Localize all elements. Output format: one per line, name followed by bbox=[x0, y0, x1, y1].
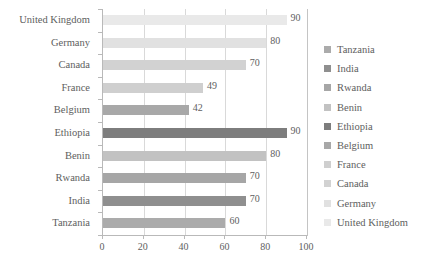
legend-item[interactable]: Belgium bbox=[324, 136, 437, 155]
legend-item[interactable]: France bbox=[324, 155, 437, 174]
bar bbox=[103, 196, 246, 206]
category-axis-tickmark bbox=[98, 167, 102, 168]
plot-wrapper: United KingdomGermanyCanadaFranceBelgium… bbox=[0, 0, 320, 273]
legend-item[interactable]: Tanzania bbox=[324, 40, 437, 59]
legend-swatch-icon bbox=[324, 84, 331, 91]
bar-value-label: 80 bbox=[266, 148, 280, 159]
category-axis-tickmark bbox=[98, 99, 102, 100]
category-axis-tickmark bbox=[98, 190, 102, 191]
bar bbox=[103, 15, 287, 25]
legend-label: Rwanda bbox=[337, 82, 371, 93]
bar bbox=[103, 83, 203, 93]
bar-value-label: 80 bbox=[266, 35, 280, 46]
bar-value-label: 70 bbox=[246, 193, 260, 204]
category-axis-labels: United KingdomGermanyCanadaFranceBelgium… bbox=[0, 9, 96, 235]
plot-area: 90807049429080707060 bbox=[102, 9, 306, 235]
legend-item[interactable]: Benin bbox=[324, 98, 437, 117]
legend-label: Ethiopia bbox=[337, 121, 373, 132]
legend-label: Canada bbox=[337, 178, 369, 189]
bar-value-label: 49 bbox=[203, 80, 217, 91]
category-label: India bbox=[0, 190, 96, 213]
category-axis-tickmark bbox=[98, 212, 102, 213]
legend-label: France bbox=[337, 159, 366, 170]
gridline bbox=[307, 9, 308, 236]
x-axis-tick-label: 100 bbox=[299, 241, 314, 252]
legend-swatch-icon bbox=[324, 180, 331, 187]
bar bbox=[103, 173, 246, 183]
category-label: Benin bbox=[0, 145, 96, 168]
chart-legend: TanzaniaIndiaRwandaBeninEthiopiaBelgiumF… bbox=[324, 40, 437, 232]
bar bbox=[103, 38, 266, 48]
bar-row: 49 bbox=[103, 77, 307, 100]
category-axis-tickmark bbox=[98, 145, 102, 146]
legend-swatch-icon bbox=[324, 123, 331, 130]
legend-label: Benin bbox=[337, 102, 362, 113]
legend-swatch-icon bbox=[324, 200, 331, 207]
category-axis-tickmark bbox=[98, 9, 102, 10]
bar-value-label: 60 bbox=[225, 215, 239, 226]
bar bbox=[103, 218, 225, 228]
x-axis-tick-label: 80 bbox=[260, 241, 270, 252]
category-axis-tickmark bbox=[98, 235, 102, 236]
category-axis-tickmark bbox=[98, 32, 102, 33]
legend-swatch-icon bbox=[324, 104, 331, 111]
x-axis-tick-label: 20 bbox=[138, 241, 148, 252]
x-axis-tickmark bbox=[143, 235, 144, 239]
legend-swatch-icon bbox=[324, 142, 331, 149]
bar bbox=[103, 105, 189, 115]
category-label: Canada bbox=[0, 54, 96, 77]
category-axis-tickmark bbox=[98, 54, 102, 55]
category-axis-tickmark bbox=[98, 122, 102, 123]
x-axis-tickmark bbox=[102, 235, 103, 239]
category-label: Rwanda bbox=[0, 167, 96, 190]
legend-label: Belgium bbox=[337, 140, 373, 151]
legend-label: India bbox=[337, 63, 359, 74]
bar-value-label: 90 bbox=[287, 12, 301, 23]
legend-label: Germany bbox=[337, 198, 376, 209]
category-label: Belgium bbox=[0, 99, 96, 122]
x-axis-tick-label: 60 bbox=[219, 241, 229, 252]
bar-value-label: 42 bbox=[189, 102, 203, 113]
x-axis-tickmark bbox=[265, 235, 266, 239]
bar bbox=[103, 151, 266, 161]
bar-row: 70 bbox=[103, 54, 307, 77]
bar-chart: United KingdomGermanyCanadaFranceBelgium… bbox=[0, 0, 437, 273]
category-axis-tickmark bbox=[98, 77, 102, 78]
bar-row: 80 bbox=[103, 32, 307, 55]
legend-item[interactable]: Ethiopia bbox=[324, 117, 437, 136]
legend-swatch-icon bbox=[324, 46, 331, 53]
x-axis-tickmark bbox=[184, 235, 185, 239]
legend-swatch-icon bbox=[324, 65, 331, 72]
bar bbox=[103, 128, 287, 138]
legend-label: United Kingdom bbox=[337, 217, 408, 228]
bar-row: 90 bbox=[103, 122, 307, 145]
category-label: United Kingdom bbox=[0, 9, 96, 32]
legend-item[interactable]: United Kingdom bbox=[324, 213, 437, 232]
legend-item[interactable]: Germany bbox=[324, 194, 437, 213]
bar-row: 70 bbox=[103, 190, 307, 213]
x-axis-tick-labels: 020406080100 bbox=[102, 241, 307, 257]
bar-row: 60 bbox=[103, 212, 307, 235]
bar-row: 70 bbox=[103, 167, 307, 190]
legend-item[interactable]: Rwanda bbox=[324, 78, 437, 97]
category-label: Tanzania bbox=[0, 212, 96, 235]
bar-row: 42 bbox=[103, 99, 307, 122]
bar-value-label: 70 bbox=[246, 170, 260, 181]
bar-row: 90 bbox=[103, 9, 307, 32]
legend-item[interactable]: India bbox=[324, 59, 437, 78]
x-axis-tickmark bbox=[224, 235, 225, 239]
legend-label: Tanzania bbox=[337, 44, 375, 55]
legend-item[interactable]: Canada bbox=[324, 174, 437, 193]
category-label: France bbox=[0, 77, 96, 100]
x-axis-tick-label: 0 bbox=[100, 241, 105, 252]
bar bbox=[103, 60, 246, 70]
legend-swatch-icon bbox=[324, 161, 331, 168]
x-axis-line bbox=[102, 235, 307, 236]
x-axis-tick-label: 40 bbox=[179, 241, 189, 252]
category-label: Ethiopia bbox=[0, 122, 96, 145]
x-axis-tickmark bbox=[306, 235, 307, 239]
legend-swatch-icon bbox=[324, 219, 331, 226]
bar-row: 80 bbox=[103, 145, 307, 168]
bar-value-label: 90 bbox=[287, 125, 301, 136]
bar-value-label: 70 bbox=[246, 57, 260, 68]
